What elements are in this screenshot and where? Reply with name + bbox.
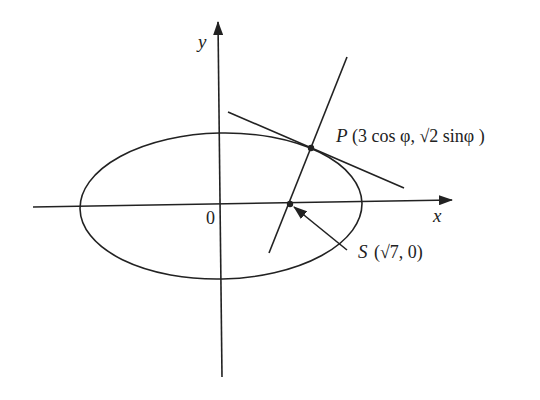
s-pointer-arrow	[294, 207, 347, 250]
point-p-dot	[308, 145, 314, 151]
point-s-dot	[287, 201, 293, 207]
point-p-label: P	[335, 125, 348, 146]
origin-label: 0	[206, 208, 215, 228]
ellipse-diagram: y x 0 P (3 cos φ, √2 sinφ ) S (√7, 0)	[0, 0, 540, 400]
x-axis-label: x	[432, 205, 442, 226]
point-s-coords: (√7, 0)	[374, 242, 423, 263]
point-p-coords: (3 cos φ, √2 sinφ )	[352, 126, 485, 147]
tangent-line	[228, 112, 404, 188]
x-axis	[33, 200, 452, 207]
point-s-label: S	[358, 241, 368, 262]
y-axis	[218, 22, 222, 377]
y-axis-label: y	[196, 31, 207, 52]
normal-line	[269, 57, 347, 253]
